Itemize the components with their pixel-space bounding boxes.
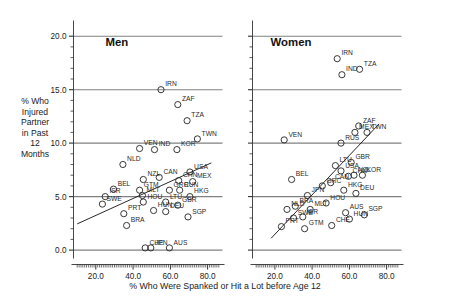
x-tick-label: 40.0 (304, 272, 320, 281)
x-tick-label: 60.0 (162, 272, 178, 281)
data-point-label: SGP (192, 208, 207, 215)
data-point-label: KOR (181, 140, 196, 147)
data-point (334, 56, 340, 62)
y-tick-label: 10.0 (51, 139, 67, 148)
data-point-label: HUN (354, 210, 369, 217)
data-point (302, 226, 308, 232)
data-point-label: GRC (327, 177, 342, 184)
data-point-label: HOU (330, 194, 345, 201)
data-point (151, 147, 157, 153)
panel-women: 20.040.060.080.0IRNTZAINDZAFMEXTWNVENRUS… (248, 21, 404, 281)
data-point-label: GBR (182, 196, 197, 203)
data-point-label: NLD (291, 200, 305, 207)
y-tick-label: 0.0 (55, 246, 67, 255)
data-point-label: TZA (191, 111, 204, 118)
data-point (289, 176, 295, 182)
data-point (151, 207, 157, 213)
data-point-label: IRN (165, 80, 177, 87)
x-tick-label: 20.0 (88, 272, 104, 281)
panel-men: 0.05.010.015.020.020.040.060.080.0IRNZAF… (51, 21, 225, 281)
data-point-label: HOU (148, 193, 163, 200)
data-point (121, 211, 127, 217)
data-point-label: JPN (312, 186, 325, 193)
data-point-label: IND (346, 65, 358, 72)
data-point-label: DEU (170, 202, 184, 209)
data-point-label: TZA (364, 60, 377, 67)
data-point-label: AUS (174, 239, 188, 246)
data-point-label: LTU (170, 193, 182, 200)
data-point-label: RUS (345, 134, 360, 141)
data-point-label: DEU (360, 184, 374, 191)
data-point-label: TWN (202, 130, 217, 137)
data-point (185, 214, 191, 220)
data-point (364, 129, 370, 135)
data-point-label: SWE (107, 195, 123, 202)
data-point (353, 190, 359, 196)
data-point-label: JPN (155, 239, 168, 246)
data-point-label: CHN (183, 171, 198, 178)
data-point (163, 209, 169, 215)
data-point-label: IND (159, 140, 171, 147)
data-point (120, 161, 126, 167)
y-tick-label: 5.0 (55, 193, 67, 202)
x-tick-label: 80.0 (379, 272, 395, 281)
data-point-label: VEN (288, 131, 302, 138)
x-tick-label: 40.0 (125, 272, 141, 281)
data-point-label: GTM (309, 219, 324, 226)
data-point-label: ZAF (182, 95, 195, 102)
data-point-label: BEL (118, 180, 131, 187)
data-point (137, 145, 143, 151)
data-point-label: CHN (353, 167, 368, 174)
y-tick-label: 20.0 (51, 32, 67, 41)
scatter-plot-svg: 0.05.010.015.020.020.040.060.080.0IRNZAF… (0, 0, 450, 296)
data-point (341, 187, 347, 193)
x-tick-label: 20.0 (267, 272, 283, 281)
data-point (174, 147, 180, 153)
data-point (184, 118, 190, 124)
data-point (339, 72, 345, 78)
chart-figure: % Who Injured Partner in Past 12 Months … (0, 0, 450, 296)
data-point-label: MLT (314, 200, 327, 207)
data-point-label: BEL (296, 170, 309, 177)
data-point (278, 224, 284, 230)
data-point-label: CHE (336, 216, 351, 223)
data-point-label: NZL (148, 170, 161, 177)
data-point (284, 206, 290, 212)
data-point (99, 201, 105, 207)
data-point (281, 137, 287, 143)
data-point-label: BRA (131, 216, 145, 223)
data-point (124, 222, 130, 228)
y-tick-label: 15.0 (51, 86, 67, 95)
data-point-label: GBR (355, 153, 370, 160)
x-tick-label: 80.0 (200, 272, 216, 281)
data-point-label: SWE (298, 209, 314, 216)
data-point-label: PRT (128, 204, 141, 211)
data-point-label: CAN (163, 168, 177, 175)
data-point-label: MEX (197, 172, 212, 179)
data-point-label: HKG (194, 187, 209, 194)
data-point (175, 102, 181, 108)
data-point-label: PRT (286, 217, 299, 224)
data-point-label: KOR (367, 166, 382, 173)
data-point-label: USA (194, 163, 208, 170)
data-point-label: VEN (144, 139, 158, 146)
data-point-label: TWN (371, 123, 386, 130)
x-tick-label: 60.0 (341, 272, 357, 281)
data-point-label: NLD (127, 155, 141, 162)
data-point-label: ISR (109, 187, 120, 194)
data-point-label: SGP (368, 205, 383, 212)
data-point-label: IRN (341, 49, 353, 56)
data-point (343, 210, 349, 216)
data-point (332, 163, 338, 169)
data-point (329, 222, 335, 228)
